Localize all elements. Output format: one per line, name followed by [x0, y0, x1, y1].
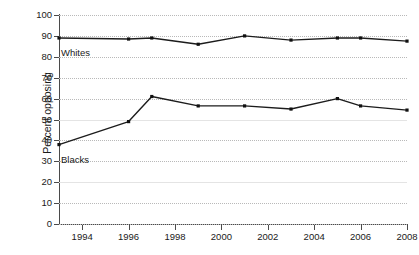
x-tick-label-1998: 1998: [164, 232, 185, 242]
data-point: [57, 36, 60, 39]
data-point: [336, 36, 339, 39]
y-tick-label-10: 10: [6, 198, 52, 208]
plot-area: [59, 15, 407, 224]
y-tick-label-70: 70: [6, 73, 52, 83]
y-tick-label-20: 20: [6, 177, 52, 187]
x-tick-label-2002: 2002: [257, 232, 278, 242]
x-tick-1996: [129, 225, 130, 230]
y-tick-label-60: 60: [6, 94, 52, 104]
y-tick-label-100: 100: [6, 10, 52, 20]
x-tick-2006: [361, 225, 362, 230]
data-point: [197, 104, 200, 107]
data-point: [405, 40, 408, 43]
data-point: [150, 36, 153, 39]
x-tick-label-1994: 1994: [72, 232, 93, 242]
x-tick-label-2008: 2008: [396, 232, 417, 242]
data-point: [243, 104, 246, 107]
x-tick-2008: [407, 225, 408, 230]
data-point: [127, 120, 130, 123]
y-tick-label-50: 50: [6, 115, 52, 125]
data-point: [405, 108, 408, 111]
x-tick-label-2004: 2004: [304, 232, 325, 242]
series-label-whites: Whites: [61, 48, 90, 58]
x-tick-2004: [314, 225, 315, 230]
data-point: [57, 143, 60, 146]
y-tick-label-40: 40: [6, 136, 52, 146]
x-tick-1998: [175, 225, 176, 230]
y-tick-label-80: 80: [6, 52, 52, 62]
series-blacks: [57, 95, 408, 146]
data-point: [150, 95, 153, 98]
y-tick-label-0: 0: [6, 219, 52, 229]
x-tick-label-2000: 2000: [211, 232, 232, 242]
data-point: [289, 38, 292, 41]
data-point: [127, 37, 130, 40]
data-point: [289, 107, 292, 110]
series-line-whites: [59, 36, 407, 44]
line-chart: Percent opposing 0102030405060708090100 …: [0, 0, 419, 255]
y-tick-label-30: 30: [6, 157, 52, 167]
data-point: [359, 104, 362, 107]
data-point: [243, 34, 246, 37]
x-tick-label-2006: 2006: [350, 232, 371, 242]
x-tick-label-1996: 1996: [118, 232, 139, 242]
x-tick-2000: [221, 225, 222, 230]
data-series-layer: [59, 15, 407, 224]
series-label-blacks: Blacks: [61, 155, 89, 165]
y-tick-label-90: 90: [6, 31, 52, 41]
x-tick-2002: [268, 225, 269, 230]
data-point: [359, 36, 362, 39]
x-tick-1994: [82, 225, 83, 230]
series-line-blacks: [59, 97, 407, 145]
gridline-0: [59, 224, 407, 225]
series-whites: [57, 34, 408, 46]
data-point: [197, 43, 200, 46]
data-point: [336, 97, 339, 100]
